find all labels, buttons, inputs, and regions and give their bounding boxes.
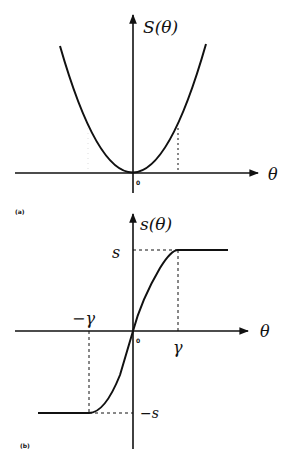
panel-b-origin-label: 0 [136,337,140,344]
panel-b-upper-level-label: s [112,243,120,262]
figure: S(θ) θ 0 (a) s(θ) s −s γ −γ θ 0 (b) [0,0,290,469]
panel-b-x-label: θ [260,322,270,341]
panel-b-y-label: s(θ) [140,214,172,234]
panel-b-tag: (b) [20,442,30,449]
panel-a-origin-label: 0 [136,179,140,186]
panel-b-pos-threshold-label: γ [173,338,183,357]
panel-b-neg-threshold-label: −γ [72,309,95,328]
panel-a: S(θ) θ 0 (a) [15,15,278,215]
panel-b-lower-level-label: −s [140,405,159,421]
panel-a-tag: (a) [15,208,25,215]
panel-a-y-label: S(θ) [143,17,178,37]
panel-a-x-label: θ [268,165,278,184]
panel-b: s(θ) s −s γ −γ θ 0 (b) [15,214,270,449]
